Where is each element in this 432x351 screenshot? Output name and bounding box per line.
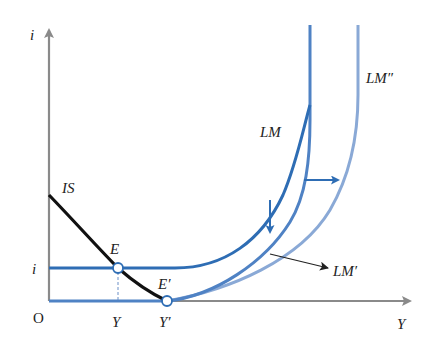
i-level-label: i [32, 261, 36, 277]
is-label: IS [61, 180, 75, 196]
point-e [113, 263, 123, 273]
is-curve [49, 195, 167, 301]
lm-double-prime-label: LM″ [365, 70, 394, 86]
y-eq-prime-label: Y′ [159, 314, 171, 330]
x-axis-label: Y [397, 316, 407, 332]
islm-diagram: i Y O IS LM LM″ LM′ E E′ i Y Y′ [0, 0, 432, 351]
lm-double-prime-curve [167, 25, 358, 301]
y-axis-label: i [30, 27, 34, 43]
origin-label: O [33, 310, 44, 326]
y-eq-label: Y [112, 314, 122, 330]
point-e-prime-label: E′ [157, 276, 171, 292]
lm-label: LM [259, 124, 282, 140]
point-e-label: E [109, 241, 119, 257]
lm-prime-label: LM′ [332, 263, 358, 279]
point-e-prime [162, 296, 172, 306]
lm-prime-curve [49, 25, 310, 301]
